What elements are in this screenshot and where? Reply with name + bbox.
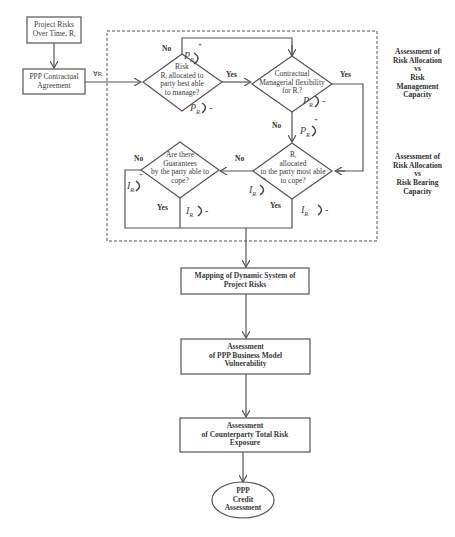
credit-assessment-terminal: PPP Credit Assessment [212,487,274,513]
p-subscript: Rᵢ [309,102,314,108]
plus-sign: + [139,171,143,179]
no-label-d1: No [162,44,171,53]
mapping-box-line: Project Risks [181,281,309,290]
decision-guarantees: Are there Guarantees by the party able t… [140,151,220,186]
p-negative-d2-yes: PRᵢ [303,95,314,108]
decision4-line: cope? [140,177,220,186]
yes-label-d1: Yes [226,70,237,79]
side-note-line: Capacity [380,91,455,100]
i-subscript: Rᵢ [189,212,194,218]
minus-sign: - [322,95,325,106]
yes-label-d3: Yes [270,201,281,210]
minus-sign: - [205,205,208,216]
i-negative-d4-yes: IRᵢ [186,205,194,218]
yes-label-d2: Yes [340,70,351,79]
contract-box: PPP Contractual Agreement [23,73,85,90]
side-note-line: Capacity [380,188,455,197]
minus-sign: - [209,102,212,113]
yes-label-d4: Yes [157,203,168,212]
p-subscript: Rᵢ [306,132,311,138]
i-subscript: Rᵢ [252,191,257,197]
side-note-bearing-capacity: Assessment of Risk Allocation vs Risk Be… [380,153,455,196]
i-subscript: Rᵢ [304,211,309,217]
p-negative-d1-yes: PRᵢ [190,102,201,115]
business-box-line: Vulnerability [181,360,310,369]
p-subscript: Rᵢ [190,57,195,63]
decision-risk-allocated: Risk Rᵢ allocated to party best able to … [148,63,216,98]
i-positive-d4-no: IRᵢ [127,180,135,193]
p-subscript: Rᵢ [196,109,201,115]
decision1-line: to manage? [148,89,216,98]
contract-box-line2: Agreement [23,82,85,91]
start-box-line2: Over Time, Rᵢ [27,30,81,39]
side-note-management-capacity: Assessment of Risk Allocation vs Risk Ma… [380,48,455,100]
business-model-box: Assessment of PPP Business Model Vulnera… [181,343,310,369]
decision-managerial-flexibility: Contractual Managerial flexibility for R… [250,70,334,96]
mapping-box: Mapping of Dynamic System of Project Ris… [181,272,309,289]
terminal-line: Assessment [212,504,274,513]
plus-sign: + [198,41,202,49]
start-box: Project Risks Over Time, Rᵢ [27,21,81,38]
no-label-d3: No [235,154,244,163]
forall-label: ∀Rᵢ [88,70,108,78]
minus-sign: - [325,204,328,215]
i-negative-d3-yes: IRᵢ [301,204,309,217]
i-subscript: Rᵢ [130,187,135,193]
p-positive-d1-no: PRᵢ [184,50,195,63]
no-label-d2: No [272,121,281,130]
p-positive-d2-no: PRᵢ [300,125,311,138]
counterparty-box-line: Exposure [180,439,310,448]
no-label-d4: No [134,154,143,163]
i-positive-d3-no: IRᵢ [249,184,257,197]
counterparty-box: Assessment of Counterparty Total Risk Ex… [180,422,310,448]
plus-sign: + [262,175,266,183]
plus-sign: + [314,116,318,124]
